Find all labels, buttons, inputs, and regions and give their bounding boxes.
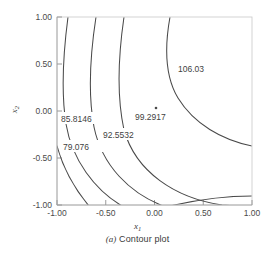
figure-caption-tag: (a): [106, 234, 117, 244]
y-tick-label: 0.50: [35, 59, 52, 69]
x-tick-label: 0.50: [195, 208, 212, 218]
x-tick-label: -0.50: [96, 208, 116, 218]
y-axis-label-text: x: [9, 109, 19, 113]
x-axis-label-subscript: 1: [138, 225, 141, 232]
y-tick-label: -0.50: [33, 153, 53, 163]
y-axis-label: x2: [9, 100, 20, 120]
y-tick-label: 0.00: [35, 106, 52, 116]
y-tick-label: 1.00: [35, 12, 52, 22]
figure-caption-text: Contour plot: [116, 234, 169, 244]
figure-caption: (a) Contour plot: [0, 234, 275, 244]
contour-label-858146: 85.8146: [61, 114, 92, 124]
contour-label-992917: 99.2917: [135, 112, 166, 122]
contour-plot-figure: 1.00 0.50 0.00 -0.50 -1.00 -1.00 -0.50 0…: [0, 0, 275, 253]
y-axis-label-subscript: 2: [13, 106, 20, 109]
contour-plot-canvas: 1.00 0.50 0.00 -0.50 -1.00 -1.00 -0.50 0…: [0, 0, 275, 253]
x-tick-label: -1.00: [47, 208, 67, 218]
x-axis-label: x1: [0, 221, 275, 232]
contour-label-79076: 79.076: [63, 142, 89, 152]
optimum-point-marker: [155, 107, 158, 110]
contour-label-10603: 106.03: [178, 64, 204, 74]
contour-label-925532: 92.5532: [103, 130, 134, 140]
y-tick-labels: 1.00 0.50 0.00 -0.50 -1.00: [33, 12, 53, 210]
x-tick-labels: -1.00 -0.50 0.00 0.50 1.00: [47, 208, 260, 218]
x-tick-label: 1.00: [244, 208, 261, 218]
x-tick-label: 0.00: [146, 208, 163, 218]
